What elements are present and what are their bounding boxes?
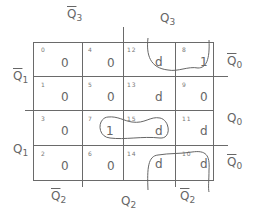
group-loop-top [148, 38, 210, 70]
group-loop-bottom [148, 152, 209, 192]
group-loop-middle [100, 117, 168, 139]
grouping-loops [0, 0, 260, 217]
